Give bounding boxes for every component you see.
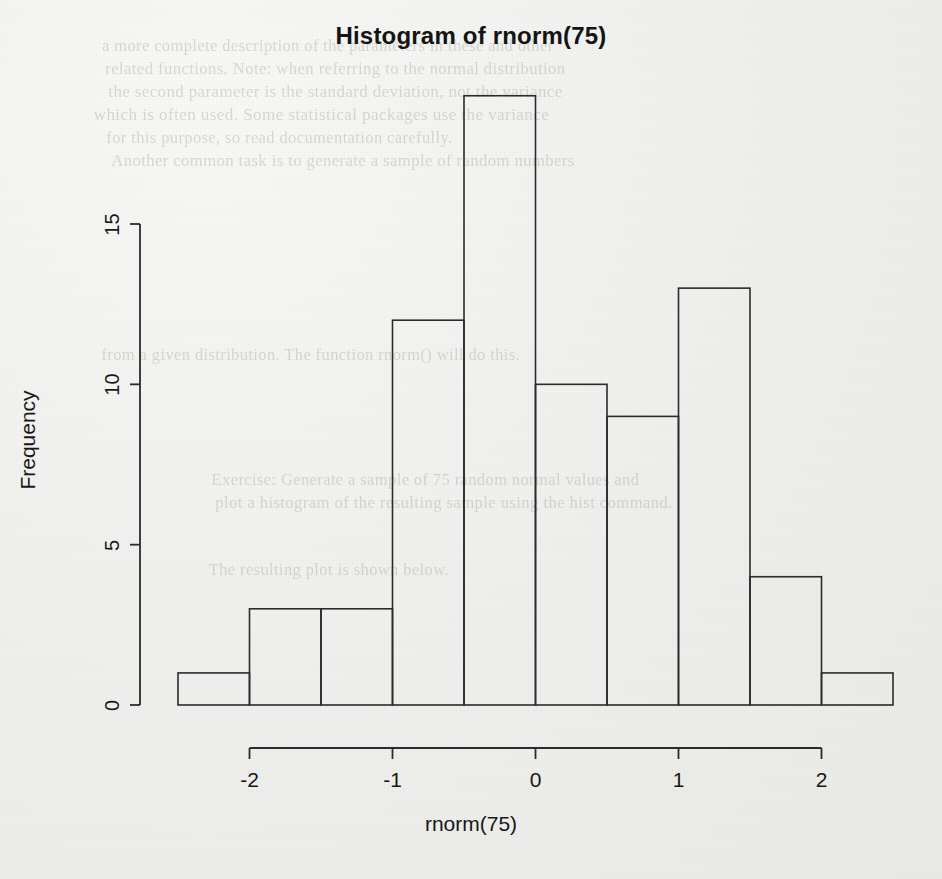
histogram-bar [464,96,536,705]
y-axis [130,224,140,705]
x-axis-label: rnorm(75) [0,812,942,836]
x-tick-label: -2 [240,768,259,792]
x-tick-label: -1 [383,768,402,792]
y-tick-label: 5 [101,540,124,551]
histogram-bar [607,416,679,705]
plot-canvas [0,0,942,879]
histogram-bar [321,609,393,705]
y-tick-label: 0 [101,700,124,711]
histogram-bar [822,673,894,705]
histogram-bar [393,320,465,705]
histogram-bar [679,288,751,705]
x-axis [250,748,822,759]
bars-group [178,96,893,705]
histogram-bar [250,609,322,705]
y-tick-label: 15 [101,213,124,235]
x-tick-label: 2 [816,768,828,792]
histogram-bar [178,673,250,705]
x-tick-label: 1 [673,768,685,792]
histogram-bar [750,577,822,705]
y-axis-label: Frequency [16,390,40,489]
y-tick-label: 10 [101,374,124,396]
histogram-plot: Histogram of rnorm(75) 051015 -2-1012 Fr… [0,0,942,879]
x-tick-label: 0 [530,768,542,792]
histogram-bar [536,384,608,705]
